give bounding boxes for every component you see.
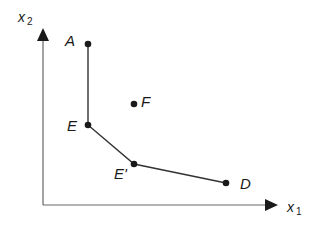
points <box>85 41 230 187</box>
diagram-svg: x2 x1 A E E' D F <box>0 0 317 228</box>
point-f <box>131 101 138 108</box>
x-axis-arrow-icon <box>265 199 278 211</box>
y-axis-arrow-icon <box>37 28 49 41</box>
point-a <box>85 41 92 48</box>
label-d: D <box>240 175 251 192</box>
frontier-line <box>88 44 226 183</box>
point-d <box>223 180 230 187</box>
y-axis-label: x2 <box>17 9 33 27</box>
label-a: A <box>64 32 75 49</box>
label-e-prime: E' <box>114 165 128 182</box>
label-e: E <box>67 117 78 134</box>
x-axis-label: x1 <box>286 199 302 217</box>
point-e <box>85 122 92 129</box>
point-e-prime <box>131 161 138 168</box>
label-f: F <box>141 93 151 110</box>
efficiency-frontier-diagram: x2 x1 A E E' D F <box>0 0 317 228</box>
